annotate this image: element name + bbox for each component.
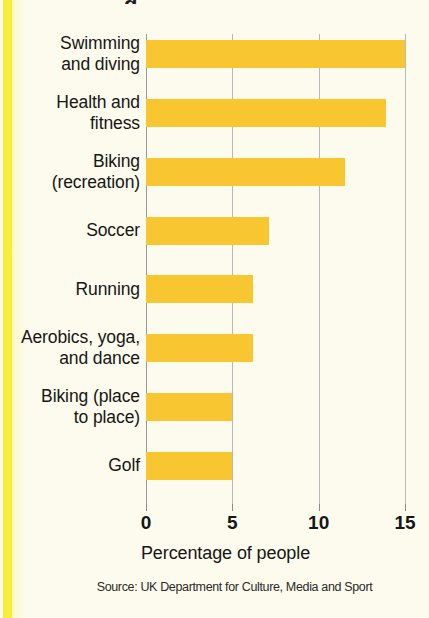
bar [146,99,386,127]
category-label-line: Golf [12,455,140,476]
category-label-line: Biking [12,151,140,172]
axis-tick-15 [405,504,406,511]
x-tick-label-5: 5 [212,512,252,534]
category-label-line: Running [12,279,140,300]
category-label: Health andfitness [12,92,140,134]
category-label: Swimmingand diving [12,33,140,75]
category-label-line: (recreation) [12,172,140,193]
x-axis-title: Percentage of people [0,543,429,564]
bar [146,275,253,303]
x-tick-label-0: 0 [126,512,166,534]
bar [146,452,232,480]
category-label-line: to place) [12,407,140,428]
plot-area [146,34,405,504]
gridline-15 [405,34,406,504]
category-label: Running [12,279,140,300]
axis-tick-5 [232,504,233,511]
category-label-line: Soccer [12,220,140,241]
category-label-line: and diving [12,54,140,75]
category-label-line: Health and [12,92,140,113]
bar [146,158,345,186]
bar [146,393,232,421]
axis-tick-0 [146,504,147,511]
x-tick-label-10: 10 [299,512,339,534]
category-label-line: Aerobics, yoga, [12,327,140,348]
category-label-line: and dance [12,348,140,369]
bar [146,334,253,362]
category-label: Biking (placeto place) [12,386,140,428]
category-label: Soccer [12,220,140,241]
category-label: Golf [12,455,140,476]
x-tick-label-15: 15 [385,512,425,534]
source-annotation: Source: UK Department for Culture, Media… [0,580,429,594]
category-label: Aerobics, yoga,and dance [12,327,140,369]
horizontal-bar-chart: Swimmingand divingHealth andfitnessBikin… [0,0,429,618]
category-label-line: Biking (place [12,386,140,407]
axis-tick-10 [319,504,320,511]
bar [146,217,269,245]
category-label: Biking(recreation) [12,151,140,193]
category-axis-labels: Swimmingand divingHealth andfitnessBikin… [12,34,140,504]
category-label-line: fitness [12,113,140,134]
bar [146,40,405,68]
category-label-line: Swimming [12,33,140,54]
